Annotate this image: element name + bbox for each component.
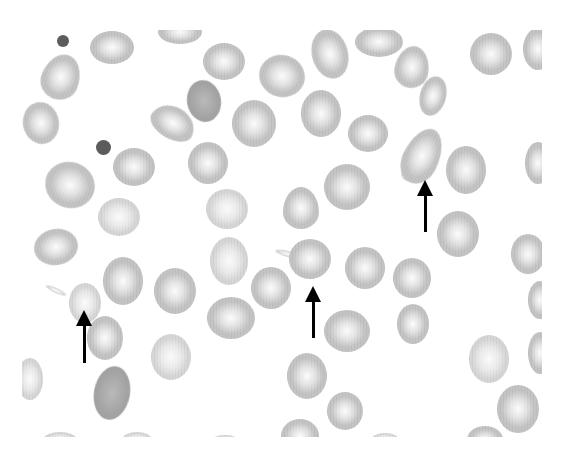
platelet: [57, 35, 69, 47]
red-blood-cell: [355, 30, 403, 57]
arrow-shaft: [312, 302, 315, 338]
red-blood-cell: [511, 234, 542, 274]
red-blood-cell: [154, 268, 196, 314]
teardrop-red-blood-cell: [283, 187, 319, 229]
red-blood-cell: [98, 198, 140, 236]
red-blood-cell: [467, 426, 503, 437]
arrow-head-icon: [76, 310, 92, 326]
red-blood-cell: [90, 363, 135, 422]
red-blood-cell: [39, 155, 102, 215]
red-blood-cell: [158, 30, 202, 44]
red-blood-cell: [203, 43, 245, 80]
red-blood-cell: [469, 335, 509, 383]
red-blood-cell: [301, 90, 341, 137]
red-blood-cell: [281, 419, 319, 437]
red-blood-cell: [324, 310, 370, 352]
red-blood-cell: [232, 100, 276, 147]
red-blood-cell: [345, 247, 385, 289]
teardrop-cell-arrow-center-icon: [305, 286, 321, 338]
red-blood-cell: [306, 30, 354, 83]
red-blood-cell: [31, 225, 81, 268]
red-blood-cell: [287, 353, 327, 399]
red-blood-cell: [113, 148, 155, 186]
red-blood-cell: [122, 432, 152, 437]
red-blood-cell: [393, 258, 431, 298]
red-blood-cell: [528, 332, 542, 374]
red-blood-cell: [371, 433, 399, 437]
blood-smear-image: [22, 30, 542, 437]
red-blood-cell: [497, 385, 539, 433]
red-blood-cell: [188, 142, 228, 184]
red-blood-cell: [254, 50, 309, 102]
red-blood-cell: [90, 31, 134, 64]
teardrop-cell-arrow-right-icon: [417, 180, 433, 232]
red-blood-cell: [22, 358, 43, 400]
red-blood-cell: [446, 146, 486, 194]
red-blood-cell: [528, 281, 542, 319]
red-blood-cell: [22, 99, 62, 147]
red-blood-cell: [523, 30, 542, 70]
red-blood-cell: [525, 142, 542, 184]
red-blood-cell: [397, 304, 429, 344]
teardrop-tail: [45, 283, 67, 297]
red-blood-cell: [251, 267, 291, 309]
red-blood-cell: [206, 189, 248, 229]
teardrop-cell-arrow-left-icon: [76, 310, 92, 363]
red-blood-cell: [289, 239, 331, 279]
red-blood-cell: [324, 164, 370, 210]
teardrop-red-blood-cell: [35, 49, 86, 105]
arrow-head-icon: [305, 286, 321, 302]
red-blood-cell: [470, 33, 512, 75]
red-blood-cell: [212, 435, 238, 437]
platelet: [96, 140, 111, 155]
arrow-shaft: [83, 326, 86, 363]
red-blood-cell: [87, 316, 123, 360]
red-blood-cell: [151, 334, 191, 380]
arrow-shaft: [424, 196, 427, 232]
red-blood-cell: [207, 297, 255, 339]
red-blood-cell: [327, 392, 363, 430]
red-blood-cell: [210, 237, 248, 285]
red-blood-cell: [437, 211, 479, 257]
red-blood-cell: [43, 432, 77, 437]
red-blood-cell: [348, 115, 388, 152]
arrow-head-icon: [417, 180, 433, 196]
red-blood-cell: [103, 257, 143, 305]
